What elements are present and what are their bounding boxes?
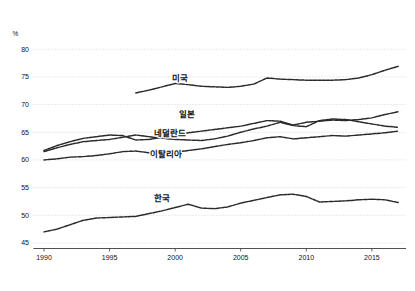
series-label-미국: 미국 bbox=[172, 73, 188, 83]
y-axis-unit-label: % bbox=[13, 30, 19, 37]
xtick-label: 1990 bbox=[36, 254, 52, 261]
chart-canvas: 4550556065707580 19901995200020052010201… bbox=[0, 0, 415, 291]
series-label-일본: 일본 bbox=[179, 109, 195, 119]
series-label-한국: 한국 bbox=[154, 193, 170, 203]
series-line-한국 bbox=[44, 194, 398, 232]
ytick-label: 65 bbox=[21, 129, 29, 136]
ytick-label: 80 bbox=[21, 46, 29, 53]
ytick-label: 75 bbox=[21, 73, 29, 80]
xtick-label: 1995 bbox=[102, 254, 118, 261]
xtick-label: 2010 bbox=[299, 254, 315, 261]
xtick-label: 2015 bbox=[364, 254, 380, 261]
ytick-label: 55 bbox=[21, 184, 29, 191]
ytick-labels-group: 4550556065707580 bbox=[21, 46, 29, 247]
xtick-label: 2005 bbox=[233, 254, 249, 261]
series-line-이탈리아 bbox=[44, 131, 398, 160]
series-line-일본 bbox=[44, 119, 398, 152]
ytick-label: 70 bbox=[21, 101, 29, 108]
ytick-label: 50 bbox=[21, 212, 29, 219]
series-label-네덜란드: 네덜란드 bbox=[154, 128, 186, 138]
unit-label-group: % bbox=[13, 30, 19, 37]
ytick-label: 45 bbox=[21, 239, 29, 246]
series-group bbox=[44, 66, 398, 232]
xtick-labels-group: 199019952000200520102015 bbox=[36, 254, 380, 261]
line-chart: 4550556065707580 19901995200020052010201… bbox=[0, 0, 415, 291]
xtick-label: 2000 bbox=[167, 254, 183, 261]
series-line-네덜란드 bbox=[44, 112, 398, 151]
series-label-이탈리아: 이탈리아 bbox=[150, 149, 182, 159]
ytick-label: 60 bbox=[21, 156, 29, 163]
axes-group bbox=[34, 249, 407, 252]
